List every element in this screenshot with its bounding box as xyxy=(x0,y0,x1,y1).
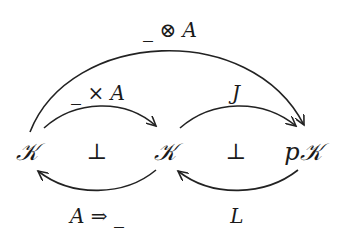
adjunction-diagram: 𝒦 𝒦 p𝒦 ⊥ ⊥ _ ⊗ A _ × A J A ⇒ _ L xyxy=(0,0,337,242)
arrow-L xyxy=(178,170,298,190)
label-J: J xyxy=(232,83,240,103)
node-K-middle: 𝒦 xyxy=(154,140,176,164)
arrow-times-A xyxy=(44,106,156,128)
adjunction-symbol-right: ⊥ xyxy=(226,141,247,163)
label-tensor-A: _ ⊗ A xyxy=(143,20,197,40)
arrow-exp-A xyxy=(38,170,156,190)
arrow-J xyxy=(180,106,296,128)
label-times-A: _ × A xyxy=(71,83,125,103)
adjunction-symbol-left: ⊥ xyxy=(87,141,108,163)
node-K-left: 𝒦 xyxy=(16,140,38,164)
label-exp-A: A ⇒ _ xyxy=(70,206,124,226)
label-L: L xyxy=(230,206,243,226)
node-pK: p𝒦 xyxy=(284,140,321,164)
